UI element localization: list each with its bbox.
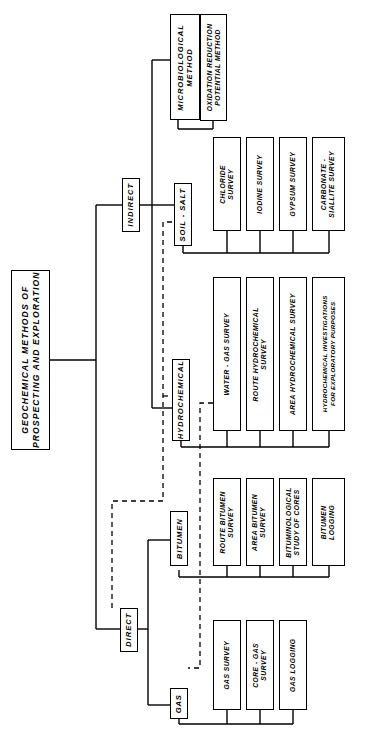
leaf-route-bitumen-survey-label: ROUTE BITUMENSURVEY [219,491,236,553]
leaf-chloride-survey-label: CHLORIDESURVEY [219,165,236,204]
leaf-area-hydrochemical-survey-label: AREA HYDROCHEMICAL SURVEY [289,293,297,415]
leaf-gypsum-survey-label: GYPSUM SURVEY [289,152,297,217]
leaf-area-hydrochemical-survey[interactable]: AREA HYDROCHEMICAL SURVEY [279,277,307,431]
leaf-oxidation-reduction-potential-method[interactable]: OXIDATION REDUCTIONPOTENTIAL METHOD [200,14,227,121]
node-gas[interactable]: GAS [170,688,188,719]
leaf-gas-survey-label: GAS SURVEY [223,641,231,690]
leaf-core-gas-survey-label: CORE - GASSURVEY [252,643,269,688]
leaf-hydrochemical-investigations-for-exploratory-purposes-label: HYDROCHEMICAL INVESTIGATIONSFOR EXPLORAT… [321,296,337,413]
node-microbiological-method-label: MICROBIOLOGICALMETHOD [176,24,195,110]
leaf-gypsum-survey[interactable]: GYPSUM SURVEY [279,137,307,231]
leaf-area-bitumen-survey-label: AREA BITUMENSURVEY [252,493,269,550]
node-microbiological-method[interactable]: MICROBIOLOGICALMETHOD [170,14,200,120]
node-bitumen[interactable]: BITUMEN [170,511,188,566]
leaf-water-gas-survey-label: WATER - GAS SURVEY [223,313,231,395]
node-hydrochemical[interactable]: HYDROCHEMICAL [172,359,190,441]
leaf-bitumen-logging-label: BITUMENLOGGING [320,504,337,539]
leaf-iodine-survey[interactable]: IODINE SURVEY [246,137,274,231]
node-direct-label: DIRECT [124,613,133,647]
leaf-core-gas-survey[interactable]: CORE - GASSURVEY [246,620,274,710]
leaf-gas-logging[interactable]: GAS LOGGING [279,620,307,710]
node-bitumen-label: BITUMEN [174,518,183,559]
node-soil-salt[interactable]: SOIL - SALT [174,183,192,246]
leaf-carbonate-siallite-survey[interactable]: CARBONATE -SIALLITE SURVEY [312,137,345,231]
node-root[interactable]: GEOCHEMICAL METHODS OFPROSPECTING AND EX… [11,270,50,450]
leaf-route-bitumen-survey[interactable]: ROUTE BITUMENSURVEY [213,478,241,566]
leaf-iodine-survey-label: IODINE SURVEY [256,155,264,214]
leaf-chloride-survey[interactable]: CHLORIDESURVEY [213,137,241,231]
leaf-bituminological-study-of-cores-label: BITUMINOLOGICALSTUDY OF CORES [285,487,302,558]
geochemical-methods-diagram: GEOCHEMICAL METHODS OFPROSPECTING AND EX… [0,0,365,731]
leaf-gas-logging-label: GAS LOGGING [289,638,297,691]
leaf-water-gas-survey[interactable]: WATER - GAS SURVEY [213,277,241,431]
leaf-oxidation-reduction-potential-method-label: OXIDATION REDUCTIONPOTENTIAL METHOD [205,24,222,112]
leaf-hydrochemical-investigations-for-exploratory-purposes[interactable]: HYDROCHEMICAL INVESTIGATIONSFOR EXPLORAT… [312,277,345,431]
leaf-area-bitumen-survey[interactable]: AREA BITUMENSURVEY [246,478,274,566]
node-hydrochemical-label: HYDROCHEMICAL [176,360,185,439]
node-gas-label: GAS [174,694,183,713]
node-soil-salt-label: SOIL - SALT [178,188,187,242]
leaf-route-hydrochemical-survey-label: ROUTE HYDROCHEMICALSURVEY [252,307,269,401]
node-direct[interactable]: DIRECT [120,608,138,652]
leaf-carbonate-siallite-survey-label: CARBONATE -SIALLITE SURVEY [320,151,337,218]
node-indirect[interactable]: INDIRECT [122,178,140,232]
leaf-gas-survey[interactable]: GAS SURVEY [213,620,241,710]
node-root-label: GEOCHEMICAL METHODS OFPROSPECTING AND EX… [20,272,41,449]
node-indirect-label: INDIRECT [126,183,135,227]
leaf-route-hydrochemical-survey[interactable]: ROUTE HYDROCHEMICALSURVEY [246,277,274,431]
leaf-bitumen-logging[interactable]: BITUMENLOGGING [312,478,345,566]
leaf-bituminological-study-of-cores[interactable]: BITUMINOLOGICALSTUDY OF CORES [279,478,307,566]
